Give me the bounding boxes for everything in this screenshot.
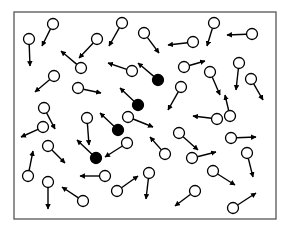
- open-circle-icon: [160, 149, 171, 160]
- open-circle-icon: [73, 83, 84, 94]
- filled-circle-icon: [113, 125, 124, 136]
- open-circle-icon: [188, 37, 199, 48]
- container-box: [14, 12, 276, 219]
- open-circle-icon: [179, 62, 190, 73]
- open-circle-icon: [38, 122, 49, 133]
- open-circle-icon: [208, 166, 219, 177]
- filled-circle-icon: [91, 153, 102, 164]
- open-circle-icon: [43, 141, 54, 152]
- open-circle-icon: [226, 133, 237, 144]
- open-circle-icon: [144, 168, 155, 179]
- velocity-arrow-icon: [227, 34, 247, 35]
- open-circle-icon: [209, 18, 220, 29]
- diagram-canvas: [0, 0, 289, 230]
- open-circle-icon: [122, 138, 133, 149]
- open-circle-icon: [123, 112, 134, 123]
- open-circle-icon: [190, 186, 201, 197]
- filled-circle-icon: [133, 100, 144, 111]
- open-circle-icon: [82, 113, 93, 124]
- filled-circle-icon: [153, 75, 164, 86]
- open-circle-icon: [174, 128, 185, 139]
- open-circle-icon: [139, 28, 150, 39]
- open-circle-icon: [228, 203, 239, 214]
- open-circle-icon: [43, 177, 54, 188]
- open-circle-icon: [127, 66, 138, 77]
- open-circle-icon: [176, 82, 187, 93]
- open-circle-icon: [187, 153, 198, 164]
- open-circle-icon: [247, 29, 258, 40]
- velocity-arrow-icon: [29, 45, 30, 67]
- open-circle-icon: [117, 18, 128, 29]
- open-circle-icon: [92, 34, 103, 45]
- open-circle-icon: [205, 67, 216, 78]
- open-circle-icon: [212, 114, 223, 125]
- open-circle-icon: [48, 19, 59, 30]
- open-circle-icon: [49, 71, 60, 82]
- open-circle-icon: [24, 34, 35, 45]
- open-circle-icon: [76, 63, 87, 74]
- open-circle-icon: [78, 196, 89, 207]
- open-circle-icon: [23, 171, 34, 182]
- open-circle-icon: [100, 171, 111, 182]
- open-circle-icon: [234, 58, 245, 69]
- open-circle-icon: [242, 148, 253, 159]
- particle-diagram: [0, 0, 289, 230]
- open-circle-icon: [112, 186, 123, 197]
- open-circle-icon: [39, 103, 50, 114]
- open-circle-icon: [246, 74, 257, 85]
- velocity-arrow-icon: [237, 137, 257, 138]
- open-circle-icon: [225, 111, 236, 122]
